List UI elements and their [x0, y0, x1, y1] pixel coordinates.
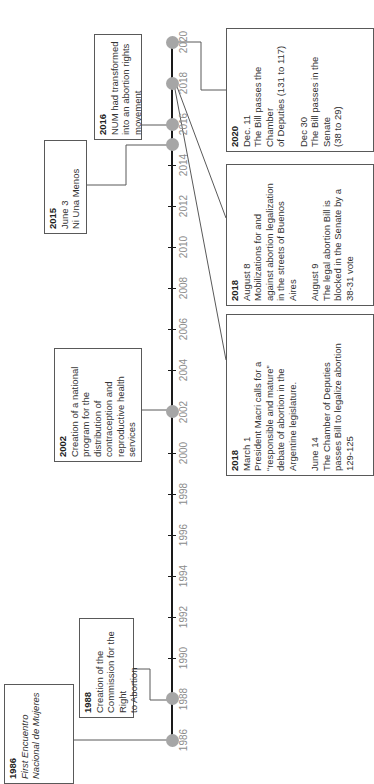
event-year: 2002 — [57, 353, 69, 457]
event-line: June 3 — [59, 145, 71, 229]
event-line: contraception and — [103, 353, 115, 457]
year-label: 2000 — [178, 433, 192, 473]
event-year: 2015 — [47, 145, 59, 229]
event-year: 2018 — [229, 319, 241, 471]
tick-2010 — [168, 247, 176, 248]
year-label: 2020 — [178, 22, 192, 62]
event-line: August 8 — [241, 169, 253, 301]
event-line: 38-31 vote — [344, 169, 356, 301]
event-line: (38 to 29) — [332, 33, 344, 147]
event-line: “responsible and mature” — [264, 319, 276, 471]
spacer — [298, 319, 309, 471]
event-year: 1986 — [7, 689, 19, 779]
event-line: Commission for the Right — [105, 623, 128, 713]
spacer — [287, 33, 298, 147]
event-line: NUM had transformed — [109, 39, 121, 135]
event-box-1988: 1988Creation of theCommission for the Ri… — [79, 618, 134, 718]
marker-dot-2018 — [166, 77, 179, 90]
event-box-2015: 2015June 3Ni Una Menos — [44, 140, 87, 234]
event-line: distribution of — [92, 353, 104, 457]
event-box-2016: 2016NUM had transformedinto an abortion … — [94, 34, 142, 140]
event-box-2002: 2002Creation of a nationalprogram for th… — [54, 348, 142, 462]
event-line: The Chamber of Deputies — [321, 319, 333, 471]
year-label: 1994 — [178, 556, 192, 596]
event-year: 2018 — [229, 169, 241, 301]
tick-2000 — [168, 453, 176, 454]
event-line: blocked in the Senate by a — [332, 169, 344, 301]
event-box-1986: 1986First EncuentroNacional de Mujeres — [4, 684, 74, 784]
tick-1994 — [168, 576, 176, 577]
event-text-2020: 2020Dec. 11The Bill passes the Chamberof… — [227, 29, 373, 151]
event-line: into an abortion rights — [120, 39, 132, 135]
event-line: 129-125 — [344, 319, 356, 471]
event-line: Aires — [287, 169, 299, 301]
event-year: 1988 — [82, 623, 94, 713]
tick-2014 — [168, 165, 176, 166]
event-line: The Bill passes in the Senate — [309, 33, 332, 147]
year-label: 1990 — [178, 638, 192, 678]
event-line: movement — [132, 39, 144, 135]
year-label: 1988 — [178, 679, 192, 719]
year-label: 2018 — [178, 63, 192, 103]
event-text-2015: 2015June 3Ni Una Menos — [45, 141, 86, 233]
event-line: of Deputies (131 to 117) — [275, 33, 287, 147]
year-label: 2014 — [178, 145, 192, 185]
event-line: The legal abortion Bill is — [321, 169, 333, 301]
event-text-2002: 2002Creation of a nationalprogram for th… — [55, 349, 141, 461]
marker-dot-1988 — [166, 692, 179, 705]
spacer — [298, 169, 309, 301]
marker-dot-1986 — [166, 734, 179, 747]
year-label: 2016 — [178, 104, 192, 144]
event-line: passes Bill to legalize abortion — [332, 319, 344, 471]
event-line: in the streets of Buenos — [275, 169, 287, 301]
year-label: 1996 — [178, 515, 192, 555]
event-line: President Macri calls for a — [252, 319, 264, 471]
event-year: 2020 — [229, 33, 241, 147]
event-line: to Abortion — [128, 623, 140, 713]
event-line: First Encuentro — [19, 689, 31, 779]
event-line: Creation of a national — [69, 353, 81, 457]
event-text-1986: 1986First EncuentroNacional de Mujeres — [5, 685, 73, 783]
event-line: The Bill passes the Chamber — [252, 33, 275, 147]
event-line: March 1 — [241, 319, 253, 471]
event-line: Argentine legislature. — [287, 319, 299, 471]
event-line: August 9 — [309, 169, 321, 301]
tick-2008 — [168, 288, 176, 289]
year-label: 2012 — [178, 186, 192, 226]
event-year: 2016 — [97, 39, 109, 135]
marker-dot-2016 — [166, 118, 179, 131]
event-box-2018-march: 2018March 1President Macri calls for a“r… — [226, 314, 374, 476]
connector-2015 — [85, 145, 168, 185]
event-line: reproductive health — [115, 353, 127, 457]
tick-1996 — [168, 535, 176, 536]
event-line: Ni Una Menos — [70, 145, 82, 229]
tick-2006 — [168, 329, 176, 330]
year-label: 1998 — [178, 474, 192, 514]
event-text-2018-august: 2018August 8Mobilizations for andagainst… — [227, 165, 373, 305]
tick-2004 — [168, 370, 176, 371]
year-label: 2002 — [178, 392, 192, 432]
event-line: against abortion legalization — [264, 169, 276, 301]
event-box-2020: 2020Dec. 11The Bill passes the Chamberof… — [226, 28, 374, 152]
event-line: Dec. 11 — [241, 33, 253, 147]
tick-1992 — [168, 617, 176, 618]
year-label: 2006 — [178, 309, 192, 349]
year-label: 2010 — [178, 227, 192, 267]
tick-1998 — [168, 494, 176, 495]
tick-1990 — [168, 658, 176, 659]
marker-dot-2020 — [166, 36, 179, 49]
event-text-2016: 2016NUM had transformedinto an abortion … — [95, 35, 141, 139]
marker-dot-2015 — [166, 138, 179, 151]
event-text-2018-march: 2018March 1President Macri calls for a“r… — [227, 315, 373, 475]
event-line: Creation of the — [94, 623, 106, 713]
event-line: debate of abortion in the — [275, 319, 287, 471]
year-label: 1986 — [178, 720, 192, 760]
tick-2012 — [168, 206, 176, 207]
year-label: 1992 — [178, 597, 192, 637]
event-line: June 14 — [309, 319, 321, 471]
event-line: services — [126, 353, 138, 457]
event-line: program for the — [80, 353, 92, 457]
marker-dot-2002 — [166, 405, 179, 418]
event-line: Mobilizations for and — [252, 169, 264, 301]
